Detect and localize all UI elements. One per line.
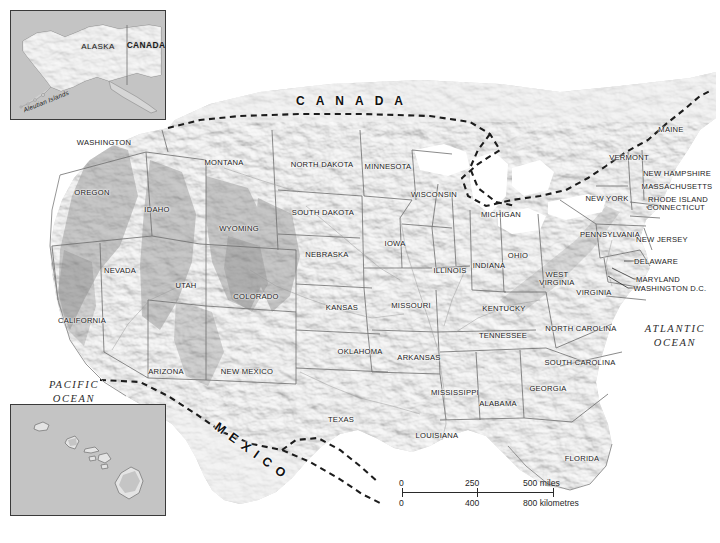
scale-tick-end (553, 488, 554, 497)
scale-km-mid: 400 (465, 498, 479, 508)
inset-hawaii: Kauai Oahu Maui Hawaii HAWAIIAN ISLANDS (10, 404, 166, 516)
scale-tick-mid (477, 488, 478, 497)
scale-miles-start: 0 (399, 478, 404, 488)
scale-tick-start (402, 488, 403, 497)
us-map: CANADA MEXICO PACIFIC OCEAN ATLANTIC OCE… (0, 0, 720, 543)
scale-bar: 0 250 500 miles 0 400 800 kilometres (399, 476, 579, 512)
inset-alaska: ALASKA CANADA Aleutian Islands (10, 10, 166, 120)
scale-km-start: 0 (399, 498, 404, 508)
scale-km-end: 800 kilometres (523, 498, 579, 508)
scale-miles-end: 500 miles (523, 478, 560, 488)
scale-miles-mid: 250 (465, 478, 479, 488)
